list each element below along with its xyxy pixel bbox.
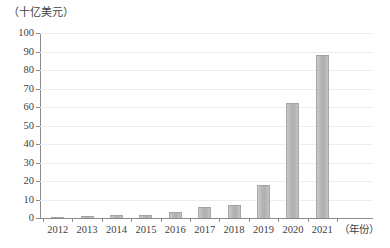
y-axis-tick-label: 70 [2, 84, 34, 95]
bar [286, 103, 299, 218]
x-axis-tick-mark [278, 218, 279, 222]
plot-area [40, 33, 373, 218]
x-axis-tick-mark [161, 218, 162, 222]
bar [228, 205, 241, 218]
y-axis-tick-mark [36, 70, 40, 71]
y-axis-tick-label: 0 [2, 213, 34, 224]
x-axis-baseline [40, 218, 373, 219]
y-axis-tick-label: 90 [2, 47, 34, 58]
bar [139, 215, 152, 218]
bar [81, 216, 94, 218]
x-axis-tick-label: 2021 [302, 224, 342, 236]
x-axis-tick-mark [219, 218, 220, 222]
bar [51, 217, 64, 218]
bar [257, 185, 270, 218]
bar [110, 215, 123, 218]
y-axis-tick-mark [36, 200, 40, 201]
x-axis-tick-mark [72, 218, 73, 222]
bar-chart: （十亿美元） 1009080706050403020100 2012201320… [0, 0, 390, 248]
x-axis-tick-mark [337, 218, 338, 222]
x-axis-tick-mark [190, 218, 191, 222]
y-axis-tick-mark [36, 107, 40, 108]
x-axis-tick-mark [131, 218, 132, 222]
y-axis-tick-label: 20 [2, 176, 34, 187]
y-axis-tick-label: 60 [2, 102, 34, 113]
y-axis-tick-label: 50 [2, 121, 34, 132]
y-axis-tick-label: 30 [2, 158, 34, 169]
y-axis-tick-mark [36, 52, 40, 53]
y-axis-tick-label: 10 [2, 195, 34, 206]
y-axis-tick-mark [36, 126, 40, 127]
gridline [40, 33, 373, 34]
y-axis-tick-mark [36, 33, 40, 34]
y-axis-tick-mark [36, 89, 40, 90]
y-axis-tick-label: 80 [2, 65, 34, 76]
y-axis-tick-mark [36, 181, 40, 182]
x-axis-tick-mark [308, 218, 309, 222]
bar [316, 55, 329, 218]
y-axis-tick-mark [36, 218, 40, 219]
bar [169, 212, 182, 218]
gridline [40, 52, 373, 53]
bar [198, 207, 211, 218]
y-axis-tick-mark [36, 163, 40, 164]
y-axis-tick-label: 100 [2, 28, 34, 39]
y-axis-tick-mark [36, 144, 40, 145]
x-axis-tick-mark [102, 218, 103, 222]
x-axis-unit-label: （年份） [339, 224, 379, 236]
y-axis-tick-labels: 1009080706050403020100 [0, 0, 34, 248]
y-axis-tick-label: 40 [2, 139, 34, 150]
x-axis-tick-mark [43, 218, 44, 222]
x-axis-tick-mark [249, 218, 250, 222]
